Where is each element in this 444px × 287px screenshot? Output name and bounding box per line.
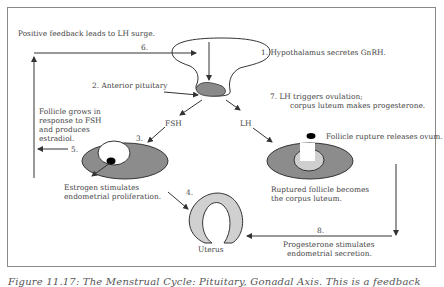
step-4-label: 4. [186,188,193,197]
step-1-label: 1. Hypothalamus secretes GnRH. [261,48,386,57]
lh-label: LH [240,119,251,128]
estrogen-line1: Estrogen stimulates [64,183,139,192]
follicle-grows-line1: Follicle grows in [39,107,101,116]
step-5-label: 5. [71,145,78,154]
step-8-label: 8. [317,226,324,235]
step-2-label: 2. Anterior pituitary [92,81,167,90]
rupture-label: Follicle rupture releases ovum. [326,132,443,141]
progesterone-line2: endometrial secretion. [287,249,372,258]
step-6-label: 6. [141,43,148,52]
label-positive-feedback: Positive feedback leads to LH surge. [18,29,155,38]
follicle-grows-line3: and produces [39,125,90,134]
uterus-label: Uterus [198,245,224,254]
fsh-label: FSH [165,119,182,128]
follicle-grows-line4: estradiol. [39,134,74,143]
follicle-grows-line2: response to FSH [39,116,102,125]
step-3-label: 3. [136,134,143,143]
step-7-line1: 7. LH triggers ovulation; [270,92,363,101]
step-7-line2: corpus luteum makes progesterone. [290,101,425,110]
figure-caption: Figure 11.17: The Menstrual Cycle: Pitui… [8,276,421,287]
ruptured-line1: Ruptured follicle becomes [271,185,369,194]
ruptured-line2: the corpus luteum. [271,194,342,203]
progesterone-line1: Progesterone stimulates [283,240,374,249]
uterus-shape [189,193,242,243]
released-ovum [307,133,316,139]
rupture-channel [300,143,315,161]
estrogen-line2: endometrial proliferation. [64,192,161,201]
ovum-in-follicle [107,158,116,165]
